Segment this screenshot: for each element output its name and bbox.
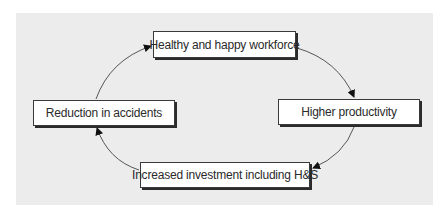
node-healthy-workforce: Healthy and happy workforce	[153, 31, 296, 58]
arrow-left-to-top	[96, 46, 151, 99]
node-increased-investment: Increased investment including H&S	[140, 162, 310, 188]
node-label: Increased investment including H&S	[132, 168, 318, 182]
arrow-right-to-bottom	[313, 127, 354, 168]
node-reduction-accidents: Reduction in accidents	[33, 100, 175, 126]
node-label: Reduction in accidents	[46, 106, 162, 120]
node-label: Healthy and happy workforce	[149, 38, 299, 52]
node-label: Higher productivity	[301, 105, 397, 119]
arrow-bottom-to-left	[97, 128, 139, 170]
node-higher-productivity: Higher productivity	[278, 99, 420, 125]
arrow-top-to-right	[297, 48, 354, 97]
